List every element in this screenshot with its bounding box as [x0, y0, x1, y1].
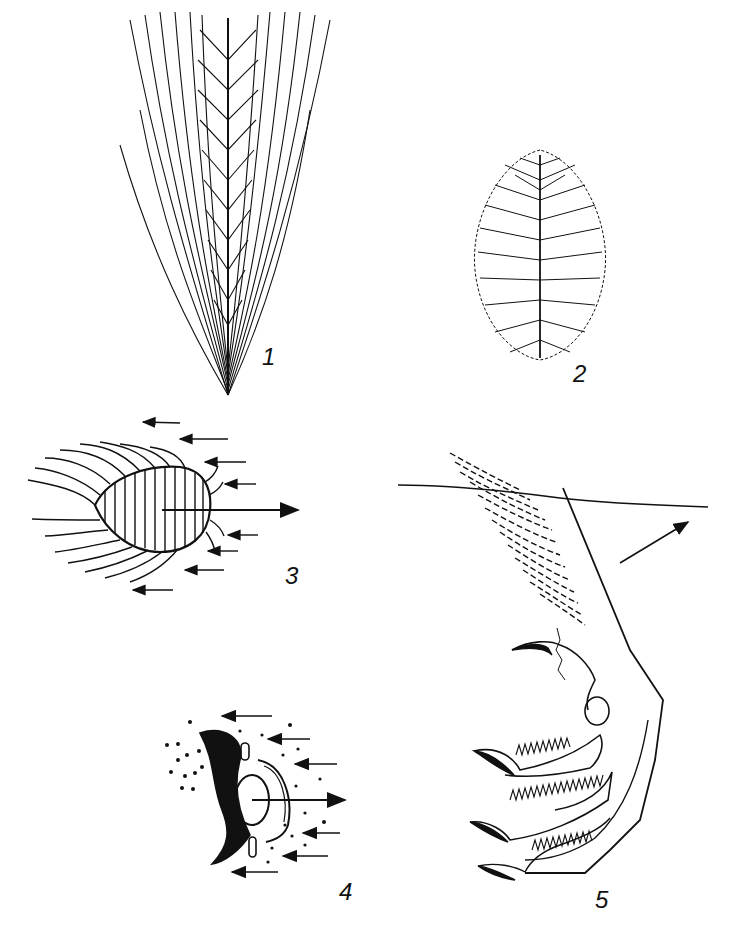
fringed-foot-drawing — [0, 0, 729, 930]
figure-label-5: 5 — [595, 888, 608, 912]
